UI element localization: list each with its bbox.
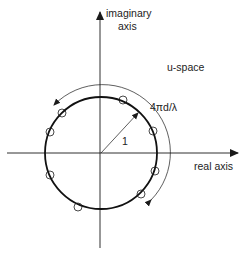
arc-length-label: 4πd/λ	[150, 101, 178, 113]
radius-label: 1	[122, 135, 128, 147]
imaginary-axis-label-line2: axis	[118, 20, 137, 32]
radius-line	[101, 113, 138, 153]
real-axis-label: real axis	[194, 160, 233, 172]
imaginary-axis-label-line1: imaginary	[106, 7, 152, 19]
u-space-label: u-space	[167, 61, 205, 73]
u-space-diagram: imaginary axis u-space 4πd/λ 1 real axis	[0, 0, 247, 258]
